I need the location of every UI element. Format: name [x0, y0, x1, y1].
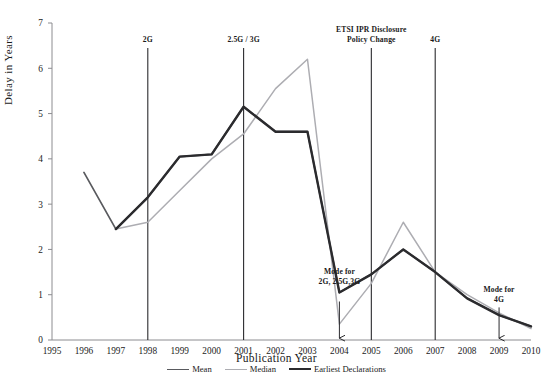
y-tick-label: 5	[38, 109, 43, 119]
event-marker-label: ETSI IPR Disclosure	[336, 25, 407, 34]
event-marker-label: 2.5G / 3G	[227, 35, 259, 44]
y-tick-label: 6	[38, 64, 43, 74]
legend-swatch	[225, 369, 247, 370]
y-tick-label: 7	[38, 18, 43, 28]
y-tick-label: 4	[38, 154, 43, 164]
legend-label: Median	[250, 364, 276, 374]
legend-swatch	[289, 368, 311, 370]
chart-legend: MeanMedianEarliest Declarations	[0, 364, 553, 374]
chart-svg: 2G2.5G / 3GETSI IPR DisclosurePolicy Cha…	[0, 0, 553, 392]
y-tick-label: 2	[38, 245, 43, 255]
y-tick-label: 1	[38, 290, 43, 300]
annotation-label: Mode for	[484, 285, 515, 294]
series-line	[116, 59, 531, 328]
annotation-label: 4G	[494, 295, 504, 304]
figure: Delay in Years 2G2.5G / 3GETSI IPR Discl…	[0, 0, 553, 392]
series-line	[84, 107, 531, 327]
plot-canvas: 2G2.5G / 3GETSI IPR DisclosurePolicy Cha…	[0, 0, 553, 392]
series-group	[84, 59, 531, 328]
event-marker-label: 4G	[430, 35, 440, 44]
event-marker-label: 2G	[143, 35, 153, 44]
legend-item: Earliest Declarations	[289, 364, 386, 374]
legend-label: Mean	[192, 364, 212, 374]
annotation-label: 2G, 2.5G,3G	[319, 277, 361, 286]
annotation-label: Mode for	[324, 267, 355, 276]
series-line	[116, 107, 531, 327]
legend-swatch	[167, 369, 189, 370]
y-tick-label: 3	[38, 200, 43, 210]
event-marker-label: Policy Change	[347, 35, 396, 44]
legend-item: Mean	[167, 364, 212, 374]
legend-label: Earliest Declarations	[314, 364, 386, 374]
legend-item: Median	[225, 364, 276, 374]
tick-labels-group: 0123456719951996199719981999200020012002…	[38, 18, 540, 356]
x-axis-title: Publication Year	[0, 352, 553, 364]
y-tick-label: 0	[38, 335, 43, 345]
annotations-group: Mode for2G, 2.5G,3GMode for4G	[319, 267, 515, 338]
